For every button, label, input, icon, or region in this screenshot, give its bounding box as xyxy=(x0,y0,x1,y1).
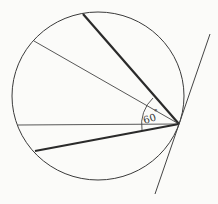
geometry-figure: 60° xyxy=(0,0,218,204)
lower-thick-chord xyxy=(35,124,179,151)
horizontal-thin-chord xyxy=(18,124,179,125)
diagram-canvas: 60° xyxy=(0,0,218,204)
tangent-line xyxy=(155,34,210,194)
angle-label: 60° xyxy=(141,107,161,125)
upper-thick-chord xyxy=(83,14,179,124)
circle xyxy=(12,12,184,180)
